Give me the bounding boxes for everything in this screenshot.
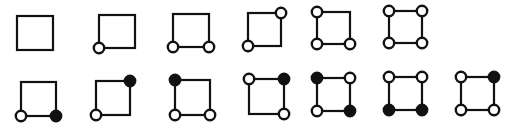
square-outline — [99, 15, 135, 48]
open-circle-icon — [168, 42, 178, 52]
square-outline — [21, 82, 56, 116]
filled-circle-icon — [345, 106, 355, 116]
square-outline — [17, 16, 53, 50]
open-circle-icon — [204, 42, 214, 52]
square-figure — [312, 73, 355, 116]
open-circle-icon — [243, 41, 253, 51]
open-circle-icon — [205, 110, 215, 120]
open-circle-icon — [456, 105, 466, 115]
square-outline — [175, 80, 210, 115]
square-figure — [94, 15, 135, 53]
square-figure — [312, 7, 355, 49]
open-circle-icon — [345, 39, 355, 49]
open-circle-icon — [384, 6, 394, 16]
diagram-svg — [0, 0, 511, 127]
filled-circle-icon — [125, 76, 135, 86]
square-figure — [168, 14, 214, 52]
square-figure — [456, 72, 499, 115]
square-outline — [249, 79, 284, 114]
filled-circle-icon — [312, 73, 322, 83]
open-circle-icon — [170, 110, 180, 120]
square-outline — [461, 77, 494, 110]
filled-circle-icon — [51, 111, 61, 121]
filled-circle-icon — [489, 72, 499, 82]
open-circle-icon — [384, 38, 394, 48]
square-figure — [17, 16, 53, 50]
square-figure — [16, 82, 61, 121]
open-circle-icon — [94, 43, 104, 53]
square-figure — [170, 75, 215, 120]
square-figure — [384, 6, 427, 48]
open-circle-icon — [417, 38, 427, 48]
open-circle-icon — [312, 39, 322, 49]
square-outline — [96, 81, 130, 115]
open-circle-icon — [91, 110, 101, 120]
square-outline — [317, 12, 350, 44]
open-circle-icon — [312, 7, 322, 17]
square-figure — [244, 74, 289, 119]
row-1 — [17, 6, 427, 53]
filled-circle-icon — [279, 74, 289, 84]
square-outline — [173, 14, 209, 47]
square-figure — [384, 72, 427, 115]
open-circle-icon — [456, 72, 466, 82]
open-circle-icon — [244, 74, 254, 84]
filled-circle-icon — [384, 105, 394, 115]
filled-circle-icon — [417, 105, 427, 115]
filled-circle-icon — [170, 75, 180, 85]
square-corner-diagram: Two rows of squares with circles marked … — [0, 0, 511, 127]
open-circle-icon — [276, 8, 286, 18]
square-outline — [317, 78, 350, 111]
square-outline — [389, 11, 422, 43]
open-circle-icon — [279, 109, 289, 119]
open-circle-icon — [345, 73, 355, 83]
square-outline — [248, 13, 281, 46]
open-circle-icon — [384, 72, 394, 82]
row-2 — [16, 72, 499, 121]
open-circle-icon — [417, 6, 427, 16]
open-circle-icon — [16, 111, 26, 121]
square-figure — [243, 8, 286, 51]
square-outline — [389, 77, 422, 110]
open-circle-icon — [489, 105, 499, 115]
open-circle-icon — [312, 106, 322, 116]
square-figure — [91, 76, 135, 120]
open-circle-icon — [417, 72, 427, 82]
